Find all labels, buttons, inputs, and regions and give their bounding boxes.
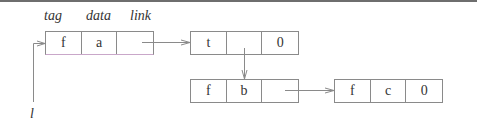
edge-layer (0, 0, 477, 133)
arrow-n3-to-n4 (285, 88, 334, 93)
pointer-arrow-l (34, 41, 46, 102)
arrow-n2-to-n3 (242, 48, 247, 79)
pointer-label-l: l (30, 106, 34, 122)
linked-list-diagram: tag data link f a t 0 f b f c 0 (0, 0, 477, 133)
arrow-n1-to-n2 (142, 40, 190, 45)
